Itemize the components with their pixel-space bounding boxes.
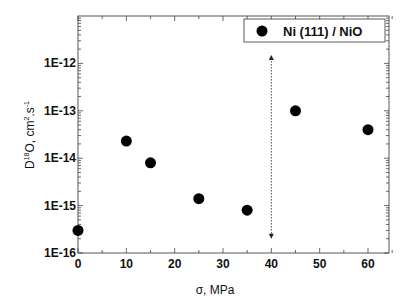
x-tick-label: 30 [216,257,230,271]
x-axis-title: σ, MPa [196,283,235,297]
x-tick-label: 10 [120,257,134,271]
annotation-arrow [269,55,274,239]
y-axis-title: D18O, cm2.s-1 [23,101,37,169]
y-tick-label: 1E-14 [44,151,76,165]
data-point [242,205,253,216]
x-tick-label: 50 [313,257,327,271]
arrow-up-icon [269,55,274,60]
legend-label: Ni (111) / NiO [283,24,362,39]
arrow-down-icon [269,234,274,239]
y-tick-label: 1E-12 [44,56,76,70]
scatter-chart: 0102030405060 1E-161E-151E-141E-131E-12 … [0,0,408,307]
x-tick-label: 40 [265,257,279,271]
data-point [290,105,301,116]
data-points [73,105,374,236]
y-axis: 1E-161E-151E-141E-131E-12 [44,18,389,260]
data-point [363,124,374,135]
x-tick-label: 20 [168,257,182,271]
y-tick-label: 1E-13 [44,104,76,118]
y-tick-label: 1E-16 [44,246,76,260]
data-point [73,225,84,236]
data-point [121,136,132,147]
plot-frame [78,16,389,253]
y-tick-label: 1E-15 [44,199,76,213]
x-tick-label: 60 [361,257,375,271]
legend-marker-icon [257,26,268,37]
data-point [145,157,156,168]
data-point [193,193,204,204]
legend: Ni (111) / NiO [244,19,385,42]
